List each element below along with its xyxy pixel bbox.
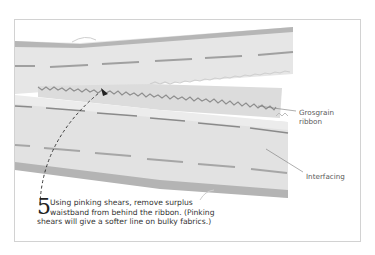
grosgrain-ribbon-label: Grosgrain ribbon <box>299 108 334 126</box>
upper-waistband <box>15 27 293 94</box>
caption-line-2: waistband from behind the ribbon. (Pinki… <box>37 208 297 218</box>
grosgrain-label-line-1: Grosgrain <box>299 108 334 117</box>
step-caption: Using pinking shears, remove surplus wai… <box>37 198 297 227</box>
caption-line-1: Using pinking shears, remove surplus <box>37 198 297 208</box>
interfacing-label: Interfacing <box>306 172 345 181</box>
caption-line-3: shears will give a softer line on bulky … <box>37 217 297 227</box>
grosgrain-label-line-2: ribbon <box>299 117 334 126</box>
